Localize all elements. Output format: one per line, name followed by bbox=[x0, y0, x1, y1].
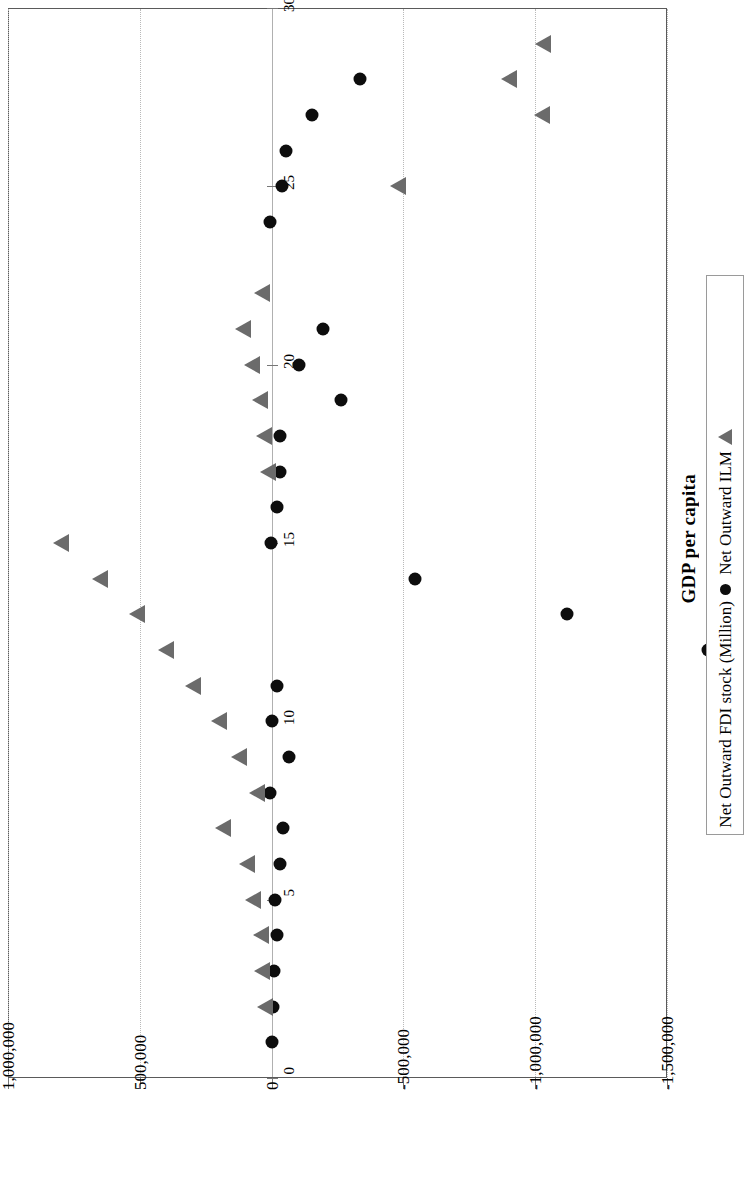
category-axis-tick-label: 0 bbox=[282, 1067, 297, 1075]
value-axis-tick-label: 0 bbox=[264, 1082, 281, 1091]
value-axis-tick-label: 1,000,000 bbox=[0, 1022, 17, 1090]
data-point bbox=[239, 855, 255, 873]
chart-legend: Net Outward FDI stock (Million) Net Outw… bbox=[706, 275, 744, 835]
data-point bbox=[265, 1036, 278, 1049]
data-point bbox=[92, 570, 108, 588]
data-point bbox=[249, 784, 265, 802]
data-point bbox=[535, 35, 551, 53]
data-point bbox=[271, 679, 284, 692]
data-point bbox=[264, 537, 277, 550]
legend-item-fdi-label: Net Outward FDI stock (Million) bbox=[717, 601, 734, 828]
triangle-marker-icon bbox=[718, 429, 732, 445]
data-point bbox=[275, 180, 288, 193]
data-point bbox=[273, 430, 286, 443]
data-point bbox=[185, 677, 201, 695]
gridline bbox=[403, 9, 404, 1077]
data-point bbox=[501, 70, 517, 88]
data-point bbox=[317, 323, 330, 336]
data-point bbox=[231, 748, 247, 766]
data-point bbox=[260, 463, 276, 481]
data-point bbox=[335, 394, 348, 407]
data-point bbox=[252, 391, 268, 409]
data-point bbox=[254, 962, 270, 980]
data-point bbox=[266, 715, 279, 728]
data-point bbox=[264, 216, 277, 229]
chart-canvas: 1,000,000500,0000-500,000-1,000,000-1,50… bbox=[0, 0, 746, 1198]
data-point bbox=[254, 284, 270, 302]
legend-item-ilm[interactable]: Net Outward ILM bbox=[717, 429, 734, 575]
gridline bbox=[535, 9, 536, 1077]
data-point bbox=[253, 926, 269, 944]
data-point bbox=[158, 641, 174, 659]
data-point bbox=[244, 356, 260, 374]
category-axis-tick-label: 5 bbox=[282, 889, 297, 897]
value-axis-tick-label: -1,000,000 bbox=[527, 1016, 544, 1090]
data-point bbox=[534, 106, 550, 124]
gridline bbox=[8, 9, 9, 1077]
data-point bbox=[256, 427, 272, 445]
axis-title: GDP per capita bbox=[672, 0, 706, 1078]
category-axis-tick-label: 10 bbox=[282, 710, 297, 725]
category-axis-tick bbox=[267, 8, 278, 9]
data-point bbox=[129, 605, 145, 623]
data-point bbox=[53, 534, 69, 552]
data-point bbox=[282, 751, 295, 764]
data-point bbox=[269, 893, 282, 906]
data-point bbox=[273, 858, 286, 871]
data-point bbox=[235, 320, 251, 338]
category-axis-tick-label: 15 bbox=[282, 532, 297, 547]
data-point bbox=[353, 73, 366, 86]
category-axis-tick bbox=[267, 1078, 278, 1079]
axis-title-label: GDP per capita bbox=[678, 474, 700, 603]
value-axis-tick-label: 500,000 bbox=[132, 1035, 149, 1090]
data-point bbox=[271, 501, 284, 514]
gridline bbox=[140, 9, 141, 1077]
data-point bbox=[390, 177, 406, 195]
data-point bbox=[245, 891, 261, 909]
data-point bbox=[306, 109, 319, 122]
circle-marker-icon bbox=[720, 584, 731, 595]
data-point bbox=[215, 819, 231, 837]
category-axis-tick-label: 30 bbox=[282, 0, 297, 12]
data-point bbox=[257, 998, 273, 1016]
legend-item-fdi[interactable]: Net Outward FDI stock (Million) bbox=[717, 584, 734, 828]
data-point bbox=[277, 822, 290, 835]
data-point bbox=[280, 144, 293, 157]
data-point bbox=[293, 358, 306, 371]
data-point bbox=[271, 929, 284, 942]
legend-item-ilm-label: Net Outward ILM bbox=[717, 451, 734, 575]
data-point bbox=[211, 712, 227, 730]
plot-area bbox=[8, 8, 667, 1078]
value-axis-tick-label: -500,000 bbox=[395, 1029, 412, 1090]
data-point bbox=[560, 608, 573, 621]
data-point bbox=[409, 572, 422, 585]
gridline bbox=[667, 9, 668, 1077]
category-axis-tick bbox=[267, 365, 278, 366]
data-point bbox=[264, 786, 277, 799]
